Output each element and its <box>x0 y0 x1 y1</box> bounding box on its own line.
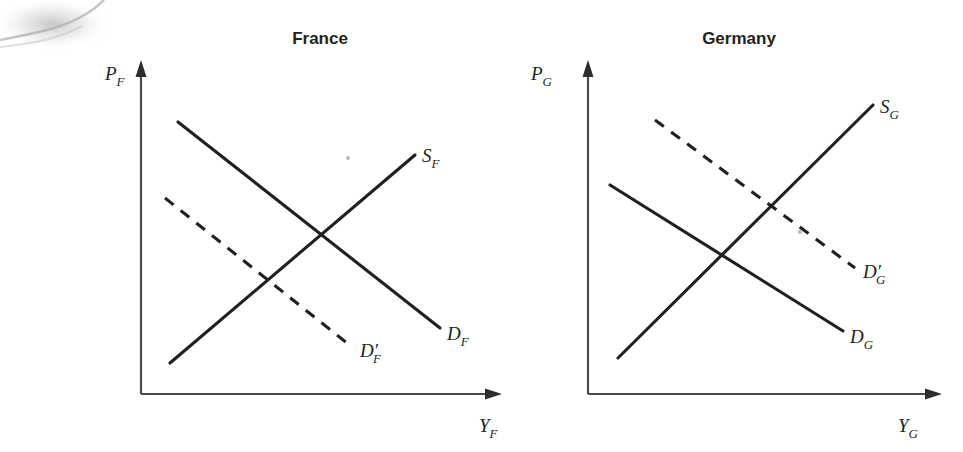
curve-label-demand-germany-base: D <box>849 326 864 347</box>
curve-label-demand-germany: DG <box>849 326 874 352</box>
y-axis-label-germany-base: P <box>530 63 543 84</box>
curve-label-demand-shifted-germany: D′G <box>862 261 886 287</box>
curve-label-supply-germany: SG <box>880 96 900 122</box>
y-axis-label-france: PF <box>104 63 126 89</box>
y-axis-label-germany-subscript: G <box>543 74 553 89</box>
panel-france: France PF YF SF DF D′F <box>104 29 502 441</box>
curve-label-demand-shifted-france-base: D <box>359 340 374 361</box>
y-axis-label-germany: PG <box>530 63 553 89</box>
x-axis-arrow-germany <box>925 389 942 400</box>
curve-demand-france <box>178 122 440 328</box>
x-axis-germany <box>588 389 942 400</box>
curve-label-supply-france-base: S <box>422 145 432 166</box>
x-axis-label-france-subscript: F <box>489 426 499 441</box>
curve-label-demand-shifted-germany-subscript: G <box>876 272 886 287</box>
curve-supply-germany <box>618 105 873 358</box>
curve-label-demand-shifted-france: D′F <box>359 340 382 366</box>
y-axis-label-france-base: P <box>104 63 117 84</box>
scan-smudge-artifact <box>0 0 112 50</box>
y-axis-label-france-subscript: F <box>116 74 126 89</box>
curve-demand-germany <box>610 185 843 331</box>
curve-label-demand-france: DF <box>446 323 470 349</box>
x-axis-label-germany: YG <box>898 415 919 441</box>
supply-demand-figure: France PF YF SF DF D′F Germany <box>0 0 963 452</box>
x-axis-label-germany-subscript: G <box>909 426 919 441</box>
x-axis-label-france: YF <box>479 415 499 441</box>
curve-label-supply-france: SF <box>422 145 441 171</box>
curve-label-supply-germany-base: S <box>880 96 890 117</box>
curve-label-demand-france-subscript: F <box>460 334 470 349</box>
curve-label-demand-shifted-france-subscript: F <box>372 351 382 366</box>
y-axis-arrow-germany <box>583 60 594 77</box>
curve-supply-france <box>170 155 415 363</box>
curve-demand-shifted-france <box>165 198 352 347</box>
panel-title-france: France <box>292 29 348 48</box>
y-axis-germany <box>583 60 594 394</box>
paper-speck <box>346 156 350 160</box>
curve-label-demand-france-base: D <box>446 323 461 344</box>
panel-germany: Germany PG YG SG DG D′G <box>530 29 942 441</box>
curve-label-supply-germany-subscript: G <box>890 107 900 122</box>
x-axis-arrow-france <box>485 389 502 400</box>
x-axis-france <box>141 389 502 400</box>
y-axis-france <box>136 60 147 394</box>
paper-speck <box>798 230 802 234</box>
curve-label-demand-shifted-germany-base: D <box>862 261 877 282</box>
y-axis-arrow-france <box>136 60 147 77</box>
curve-label-supply-france-subscript: F <box>431 156 441 171</box>
panel-title-germany: Germany <box>702 29 776 48</box>
curve-label-demand-germany-subscript: G <box>864 337 874 352</box>
curve-demand-shifted-germany <box>655 120 855 268</box>
